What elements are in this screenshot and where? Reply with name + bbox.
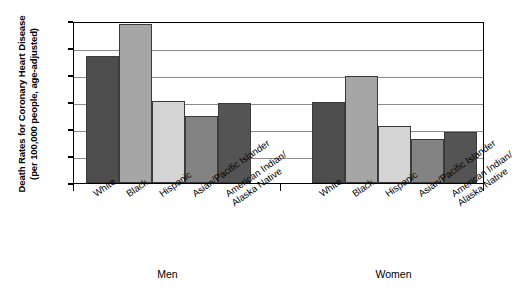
bar: [152, 101, 185, 183]
x-axis-end-tick: [483, 184, 484, 191]
bar: [345, 76, 378, 183]
bar: [86, 56, 119, 183]
y-axis-title: Death Rates for Coronary Heart Disease (…: [16, 4, 40, 204]
x-group-label: Men: [108, 268, 228, 280]
x-axis-group-separator-tick: [280, 184, 281, 191]
y-axis-title-line2: (per 100,000 people, age-adjusted): [28, 4, 40, 204]
x-axis-start-tick: [73, 184, 74, 191]
bar: [119, 24, 152, 183]
y-axis-title-line1: Death Rates for Coronary Heart Disease: [16, 4, 28, 204]
x-group-label: Women: [334, 268, 454, 280]
bar: [312, 102, 345, 183]
